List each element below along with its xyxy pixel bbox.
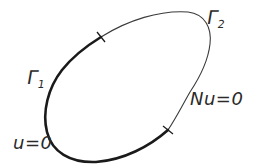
gamma1-label: Γ1 xyxy=(25,68,47,90)
gamma1-condition: u=0 xyxy=(13,134,52,152)
boundary-gamma1-arc xyxy=(45,37,168,162)
gamma2-label: Γ2 xyxy=(205,8,227,30)
boundary-gamma2-arc xyxy=(101,12,210,130)
gamma2-condition: Nu=0 xyxy=(190,90,243,108)
diagram-canvas: Γ2 Γ1 u=0 Nu=0 xyxy=(0,0,253,168)
tick-mark-top xyxy=(97,32,105,42)
